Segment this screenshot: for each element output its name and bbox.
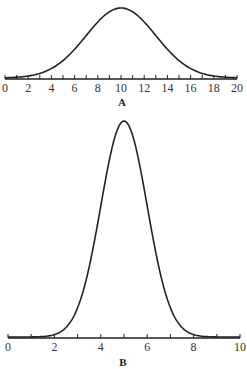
- x-tick-label: 20: [231, 81, 243, 95]
- x-tick-label: 8: [95, 81, 101, 95]
- curve-a: [5, 8, 237, 78]
- x-tick-label: 10: [234, 340, 246, 354]
- x-tick-label: 2: [51, 340, 57, 354]
- chart-panel-a: 02468101214161820 A: [2, 8, 243, 108]
- x-tick-label: 14: [161, 81, 173, 95]
- x-tick-label: 16: [185, 81, 197, 95]
- x-tick-labels-a: 02468101214161820: [2, 81, 243, 95]
- x-tick-label: 6: [72, 81, 78, 95]
- panel-label-b: B: [119, 356, 127, 368]
- x-tick-label: 6: [144, 340, 150, 354]
- x-tick-label: 18: [208, 81, 220, 95]
- x-tick-label: 2: [25, 81, 31, 95]
- x-ticks-a: [5, 75, 237, 79]
- chart-panel-b: 0246810 B: [5, 121, 246, 368]
- figure: 02468101214161820 A 0246810 B: [0, 0, 247, 369]
- x-tick-label: 4: [98, 340, 104, 354]
- x-tick-label: 12: [138, 81, 150, 95]
- x-tick-label: 8: [191, 340, 197, 354]
- panel-label-a: A: [118, 96, 126, 108]
- x-tick-labels-b: 0246810: [5, 340, 246, 354]
- curve-b: [8, 121, 240, 337]
- x-tick-label: 0: [2, 81, 8, 95]
- x-tick-label: 10: [115, 81, 127, 95]
- x-tick-label: 4: [48, 81, 54, 95]
- x-tick-label: 0: [5, 340, 11, 354]
